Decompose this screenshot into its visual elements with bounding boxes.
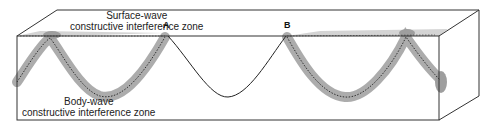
point-b-label: B [284, 20, 291, 30]
surface-wave-label-line1: Surface-wave [70, 10, 203, 21]
zone-bulge-right [435, 71, 447, 93]
zone-cap-left [43, 31, 61, 39]
body-wave-label: Body-wave constructive interference zone [22, 96, 155, 118]
point-a-label: A [163, 20, 170, 30]
body-wave-zone-left [17, 37, 165, 97]
body-wave-zone-right [287, 37, 441, 97]
surface-wave-label: Surface-wave constructive interference z… [70, 10, 203, 32]
wave-path-a-b [168, 36, 286, 97]
body-wave-label-line1: Body-wave [22, 96, 155, 107]
surface-wave-label-line2: constructive interference zone [70, 21, 203, 32]
body-wave-label-line2: constructive interference zone [22, 107, 155, 118]
surface-wave-zone-right [287, 29, 448, 36]
